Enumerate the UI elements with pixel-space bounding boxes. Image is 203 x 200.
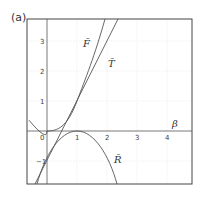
grid [27,19,192,184]
x-tick-2: 2 [105,134,109,142]
x-tick-0: 0 [40,134,44,142]
x-axis-label: β [171,118,178,129]
y-tick-2: 2 [40,68,44,76]
y-tick-neg1: −1 [36,158,46,166]
x-tick-4: 4 [165,134,170,142]
label-R: R̄ [113,154,122,165]
curve-T [35,19,118,184]
plot: 0 1 2 3 4 3 2 1 −1 β F̄ T̄ R̄ [0,0,203,200]
x-tick-1: 1 [75,134,79,142]
y-tick-1: 1 [40,98,44,106]
y-tick-3: 3 [40,38,44,46]
x-tick-3: 3 [135,134,139,142]
label-T: T̄ [108,58,116,69]
label-F: F̄ [82,38,91,49]
curve-F [29,19,105,135]
